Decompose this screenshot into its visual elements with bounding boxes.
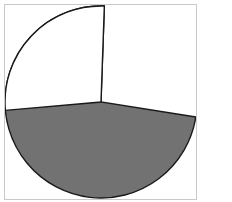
pie-slice-white[interactable] — [5, 6, 104, 110]
plot-frame — [4, 4, 197, 200]
pie-chart-svg — [5, 5, 197, 200]
pie-chart-figure — [0, 0, 232, 202]
pie-slices-group — [5, 6, 196, 198]
